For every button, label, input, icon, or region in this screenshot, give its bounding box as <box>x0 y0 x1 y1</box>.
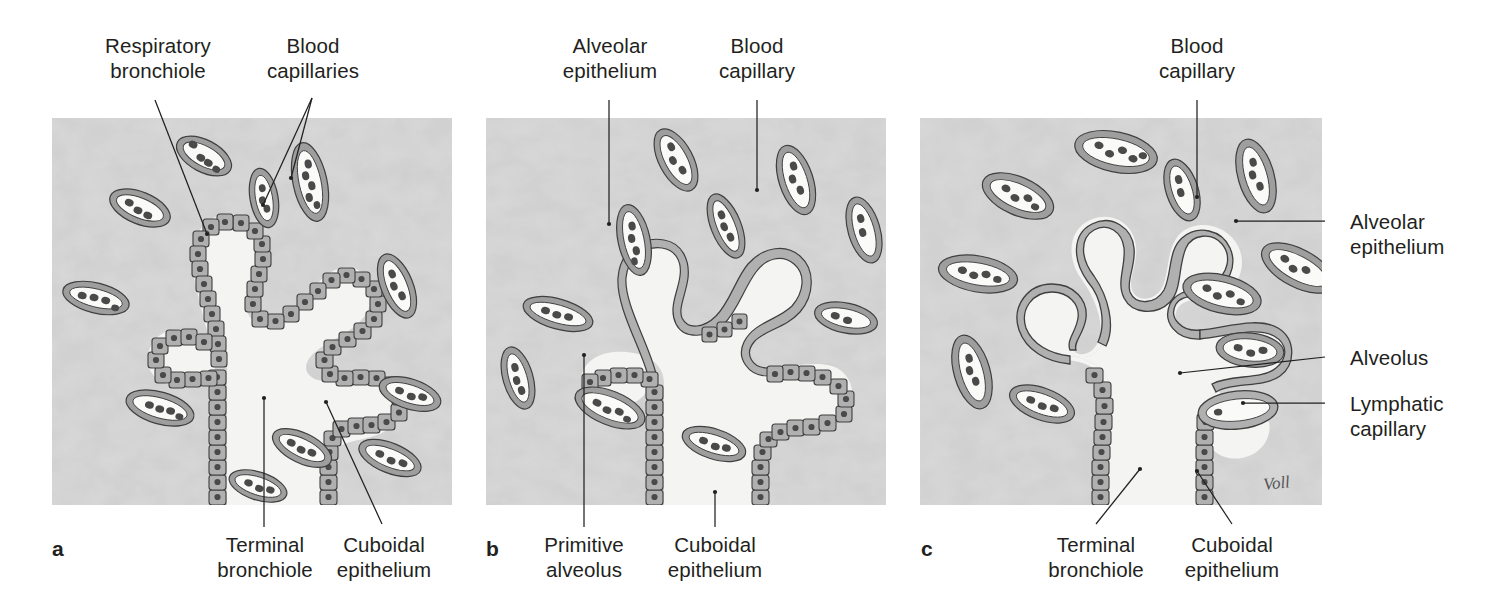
panel-c-illustration: Voll <box>920 118 1322 505</box>
lung-development-figure: Voll <box>0 0 1499 610</box>
panel-letter-a: a <box>52 537 64 561</box>
label-alveolus: Alveolus <box>1350 345 1490 370</box>
panel-a-illustration <box>52 118 452 505</box>
label-blood-capillaries: Blood capillaries <box>248 33 378 83</box>
artist-signature: Voll <box>1262 472 1291 494</box>
label-primitive-alveolus: Primitive alveolus <box>513 532 655 582</box>
label-cuboidal-epithelium-a: Cuboidal epithelium <box>310 532 458 582</box>
label-terminal-bronchiole-c: Terminal bronchiole <box>1022 532 1170 582</box>
panel-letter-b: b <box>486 537 499 561</box>
label-alveolar-epithelium-b: Alveolar epithelium <box>537 33 683 83</box>
label-lymphatic-capillary: Lymphatic capillary <box>1350 391 1490 441</box>
label-respiratory-bronchiole: Respiratory bronchiole <box>78 33 238 83</box>
panel-b-illustration <box>486 118 886 505</box>
label-cuboidal-epithelium-c: Cuboidal epithelium <box>1158 532 1306 582</box>
label-blood-capillary-c: Blood capillary <box>1132 33 1262 83</box>
label-cuboidal-epithelium-b: Cuboidal epithelium <box>641 532 789 582</box>
label-alveolar-epithelium-c: Alveolar epithelium <box>1350 209 1495 259</box>
label-blood-capillary-b: Blood capillary <box>692 33 822 83</box>
panel-letter-c: c <box>921 537 933 561</box>
